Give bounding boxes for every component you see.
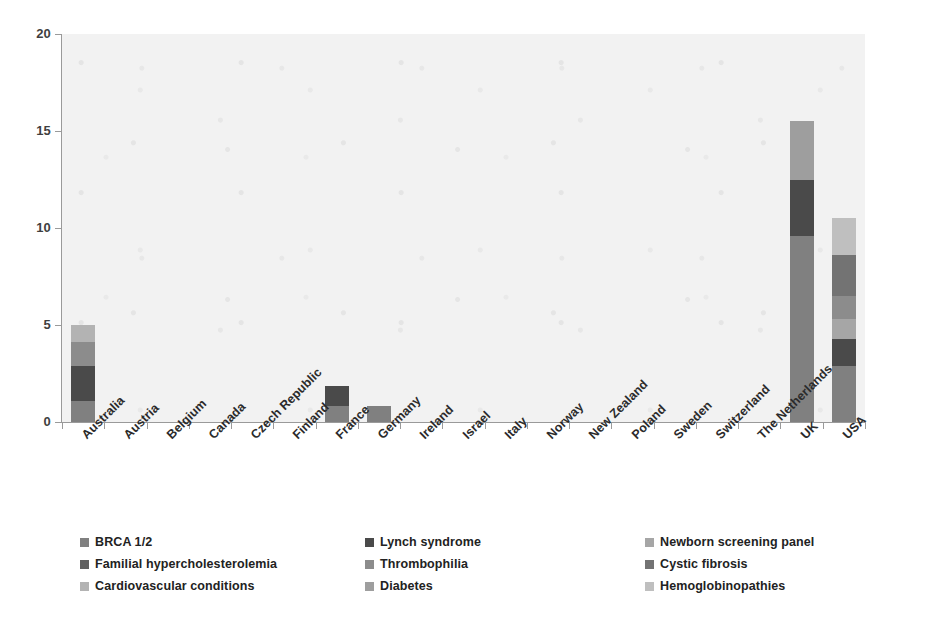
legend-item[interactable]: BRCA 1/2 (80, 536, 365, 549)
bar-stack[interactable] (832, 218, 856, 422)
legend-swatch-icon (645, 538, 654, 547)
y-tick-label: 5 (11, 317, 51, 332)
legend-item[interactable]: Familial hypercholesterolemia (80, 558, 365, 571)
bar-segment[interactable] (71, 366, 95, 401)
legend-item[interactable]: Thrombophilia (365, 558, 645, 571)
y-tick-mark (55, 325, 62, 326)
legend-swatch-icon (80, 582, 89, 591)
legend-swatch-icon (645, 582, 654, 591)
legend-label: BRCA 1/2 (95, 536, 152, 549)
y-tick-mark (55, 228, 62, 229)
legend-item[interactable]: Diabetes (365, 580, 645, 593)
stacked-bar-chart: 05101520 AustraliaAustriaBelgiumCanadaCz… (0, 0, 925, 621)
bar-segment[interactable] (832, 218, 856, 255)
legend-swatch-icon (80, 538, 89, 547)
legend-item[interactable]: Hemoglobinopathies (645, 580, 880, 593)
bar-segment[interactable] (790, 180, 814, 236)
y-tick-mark (55, 422, 62, 423)
bar-segment[interactable] (325, 386, 349, 406)
bars-layer (62, 34, 865, 422)
legend-swatch-icon (365, 582, 374, 591)
legend-label: Diabetes (380, 580, 433, 593)
legend-label: Hemoglobinopathies (660, 580, 785, 593)
legend-swatch-icon (365, 560, 374, 569)
legend-label: Familial hypercholesterolemia (95, 558, 277, 571)
y-tick-label: 0 (11, 414, 51, 429)
bar-segment[interactable] (71, 325, 95, 342)
legend-swatch-icon (80, 560, 89, 569)
bar-stack[interactable] (71, 325, 95, 422)
legend-label: Newborn screening panel (660, 536, 814, 549)
y-tick-mark (55, 131, 62, 132)
legend-label: Thrombophilia (380, 558, 468, 571)
bar-segment[interactable] (832, 255, 856, 296)
legend-swatch-icon (645, 560, 654, 569)
bar-segment[interactable] (71, 342, 95, 365)
legend-label: Cardiovascular conditions (95, 580, 254, 593)
y-tick-label: 20 (11, 26, 51, 41)
x-tick-mark (62, 423, 63, 429)
y-tick-label: 10 (11, 220, 51, 235)
legend-swatch-icon (365, 538, 374, 547)
legend-item[interactable]: Cardiovascular conditions (80, 580, 365, 593)
bar-segment[interactable] (790, 121, 814, 179)
legend-label: Cystic fibrosis (660, 558, 748, 571)
chart-legend: BRCA 1/2Lynch syndromeNewborn screening … (80, 531, 880, 597)
legend-item[interactable]: Lynch syndrome (365, 536, 645, 549)
y-tick-label: 15 (11, 123, 51, 138)
legend-item[interactable]: Newborn screening panel (645, 536, 880, 549)
bar-segment[interactable] (832, 296, 856, 319)
bar-segment[interactable] (832, 339, 856, 366)
x-tick-mark (823, 423, 824, 429)
bar-stack[interactable] (325, 386, 349, 422)
y-tick-mark (55, 34, 62, 35)
bar-segment[interactable] (832, 319, 856, 338)
bar-segment[interactable] (832, 366, 856, 422)
legend-item[interactable]: Cystic fibrosis (645, 558, 880, 571)
legend-label: Lynch syndrome (380, 536, 481, 549)
